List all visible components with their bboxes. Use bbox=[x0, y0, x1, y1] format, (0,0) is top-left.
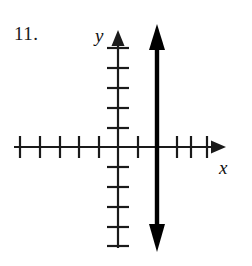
y-axis-group bbox=[112, 30, 125, 248]
x-axis-group bbox=[14, 141, 226, 154]
plotted-line-x-equals-2 bbox=[149, 24, 165, 252]
function-arrowhead-up-icon bbox=[149, 24, 165, 50]
y-axis-arrowhead-icon bbox=[112, 30, 125, 46]
coordinate-plane bbox=[0, 0, 252, 266]
graph-figure: 11. y x bbox=[0, 0, 252, 266]
x-axis-arrowhead-icon bbox=[211, 141, 226, 154]
function-arrowhead-down-icon bbox=[149, 224, 165, 252]
